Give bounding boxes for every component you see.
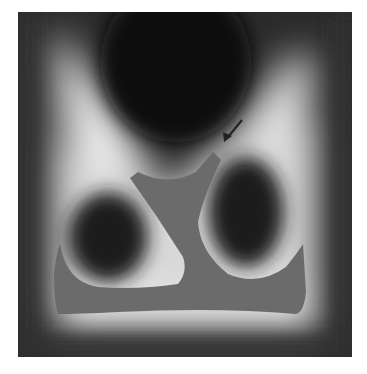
field-image <box>18 12 352 357</box>
